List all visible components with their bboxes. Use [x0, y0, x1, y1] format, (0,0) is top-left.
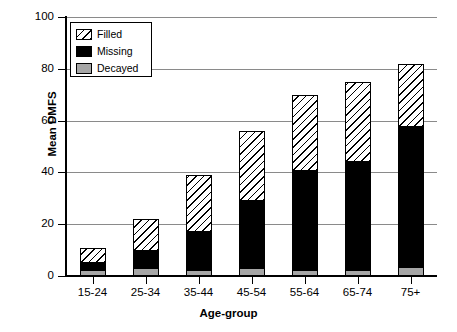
bar-segment-missing	[345, 162, 371, 269]
x-tick-mark	[252, 277, 253, 284]
y-tick-label: 0	[20, 270, 54, 282]
x-tick-label: 75+	[383, 287, 439, 299]
y-tick-mark	[58, 121, 66, 122]
bar-65-74	[345, 82, 371, 276]
bar-segment-filled	[345, 82, 371, 162]
bar-segment-missing	[186, 232, 212, 270]
x-tick-mark	[93, 277, 94, 284]
legend-item-missing: Missing	[76, 44, 151, 59]
y-tick-mark	[58, 172, 66, 173]
x-tick-mark	[199, 277, 200, 284]
bar-35-44	[186, 175, 212, 276]
x-tick-label: 15-24	[65, 287, 121, 299]
bar-segment-missing	[133, 251, 159, 268]
chart-legend: Filled Missing Decayed	[70, 22, 152, 77]
x-tick-label: 25-34	[118, 287, 174, 299]
x-tick-mark	[411, 277, 412, 284]
black-swatch-icon	[76, 46, 92, 57]
y-tick-label: 20	[20, 218, 54, 230]
x-tick-label: 45-54	[224, 287, 280, 299]
y-tick-mark	[58, 17, 66, 18]
legend-item-decayed: Decayed	[76, 61, 151, 76]
gridline	[66, 17, 437, 18]
y-tick-label: 100	[20, 11, 54, 23]
bar-45-54	[239, 131, 265, 276]
bar-segment-missing	[292, 171, 318, 269]
x-tick-mark	[305, 277, 306, 284]
bar-segment-filled	[292, 95, 318, 171]
bar-segment-filled	[186, 175, 212, 232]
bar-segment-filled	[80, 248, 106, 264]
gridline	[66, 121, 437, 122]
bar-25-34	[133, 219, 159, 276]
bar-segment-filled	[133, 219, 159, 251]
bar-55-64	[292, 95, 318, 276]
x-axis-title: Age-group	[0, 307, 457, 319]
bar-15-24	[80, 248, 106, 276]
legend-label: Missing	[97, 46, 133, 57]
gray-swatch-icon	[76, 63, 92, 74]
x-tick-mark	[146, 277, 147, 284]
bar-chart: 020406080100 15-2425-3435-4445-5455-6465…	[0, 0, 457, 332]
x-tick-label: 35-44	[171, 287, 227, 299]
y-tick-mark	[58, 69, 66, 70]
x-tick-mark	[358, 277, 359, 284]
legend-item-filled: Filled	[76, 27, 151, 42]
bar-75+	[398, 64, 424, 276]
x-tick-label: 65-74	[330, 287, 386, 299]
bar-segment-filled	[239, 131, 265, 201]
bar-segment-missing	[398, 127, 424, 267]
x-tick-label: 55-64	[277, 287, 333, 299]
bar-segment-missing	[239, 201, 265, 268]
y-tick-mark	[58, 276, 66, 277]
y-axis-line	[65, 16, 67, 277]
hatch-swatch-icon	[76, 29, 92, 40]
bar-segment-missing	[80, 263, 106, 269]
bar-segment-filled	[398, 64, 424, 127]
y-tick-mark	[58, 224, 66, 225]
y-axis-title: Mean DMFS	[46, 64, 58, 184]
legend-label: Filled	[97, 29, 122, 40]
legend-label: Decayed	[97, 63, 138, 74]
